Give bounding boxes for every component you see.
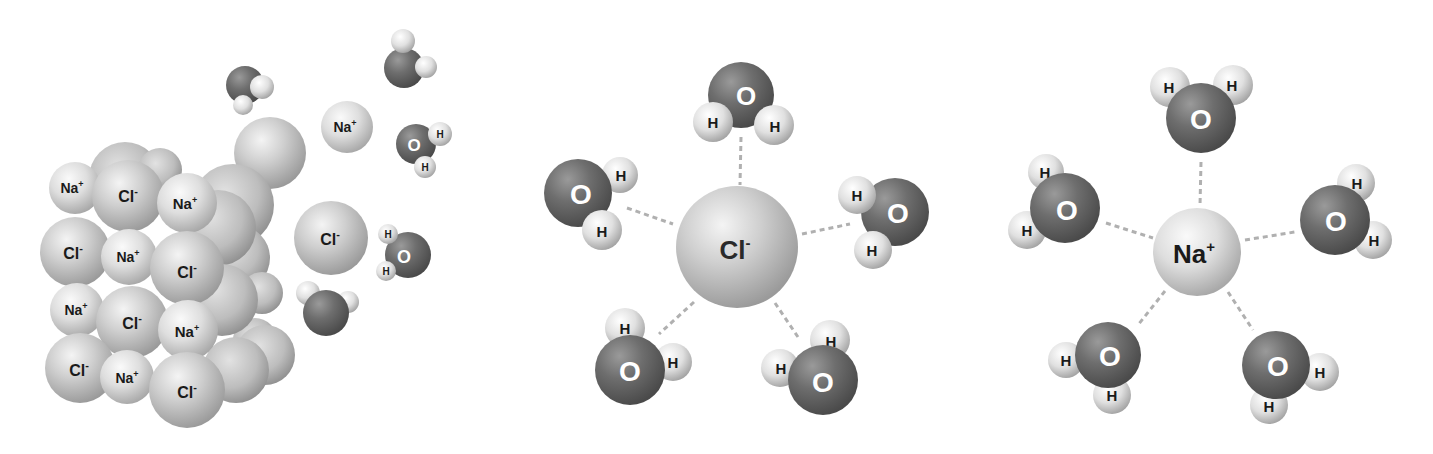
svg-text:H: H <box>708 114 719 131</box>
panel-dissolving-crystal: Na+ Cl- Na+ Cl- Na+ Cl- <box>40 29 452 428</box>
chloride-ion: Cl- <box>676 186 798 308</box>
water-molecule: O H H <box>838 176 929 269</box>
svg-text:H: H <box>1022 222 1033 239</box>
water-molecule <box>296 281 359 336</box>
lattice-ion-na: Na+ <box>50 283 104 337</box>
lattice-ion-cl: Cl- <box>149 352 225 428</box>
svg-text:H: H <box>1061 352 1072 369</box>
svg-text:H: H <box>620 320 631 337</box>
svg-text:H: H <box>867 242 878 259</box>
sodium-ion: Na+ <box>1153 208 1241 296</box>
lattice-ion-na: Na+ <box>100 350 154 404</box>
svg-text:H: H <box>1107 387 1118 404</box>
svg-text:O: O <box>1267 351 1289 382</box>
svg-text:H: H <box>1369 232 1380 249</box>
svg-text:O: O <box>397 247 411 267</box>
svg-text:O: O <box>812 367 834 398</box>
water-molecule: H H O <box>1048 322 1141 414</box>
svg-text:O: O <box>407 136 420 155</box>
water-molecule: H H O <box>595 308 692 405</box>
lattice-ion-na: Na+ <box>158 300 218 360</box>
svg-text:O: O <box>736 81 756 111</box>
nacl-dissolution-diagram: Na+ Cl- Na+ Cl- Na+ Cl- <box>0 0 1433 454</box>
water-molecule: H H O <box>1150 65 1253 153</box>
svg-text:O: O <box>1190 104 1212 135</box>
water-molecule: H H O <box>761 320 858 415</box>
svg-text:H: H <box>384 229 391 240</box>
svg-text:H: H <box>382 266 389 277</box>
water-molecule: H H O <box>1300 164 1392 259</box>
water-molecule <box>226 66 274 115</box>
svg-text:H: H <box>776 360 787 377</box>
lattice-ion-na: Na+ <box>101 229 157 285</box>
lattice-ion-cl: Cl- <box>150 231 224 305</box>
panel-hydrated-sodium: Na+ H H O H H O H H O <box>1008 65 1392 424</box>
water-molecule: H H O <box>1008 154 1100 249</box>
water-molecule: O H H <box>693 62 794 145</box>
svg-text:O: O <box>570 179 592 210</box>
lattice-ion-cl: Cl- <box>92 160 164 232</box>
svg-text:H: H <box>770 118 781 135</box>
svg-text:H: H <box>597 223 608 240</box>
lattice-ion-na: Na+ <box>157 173 217 233</box>
svg-text:H: H <box>1315 364 1326 381</box>
water-molecule <box>384 29 437 88</box>
svg-text:O: O <box>1325 206 1347 237</box>
water-molecule: H O H <box>544 157 638 250</box>
water-molecule: O H H <box>376 224 431 281</box>
panel-hydrated-chloride: Cl- O H H H O H O H H <box>544 62 929 415</box>
free-sodium-ion: Na+ <box>321 101 373 153</box>
svg-text:H: H <box>1352 175 1363 192</box>
svg-text:H: H <box>1264 398 1275 415</box>
water-molecule: H H O <box>1242 331 1339 424</box>
svg-text:H: H <box>616 167 627 184</box>
svg-text:H: H <box>421 162 428 173</box>
svg-text:O: O <box>619 356 641 387</box>
svg-text:H: H <box>1164 79 1175 96</box>
svg-text:H: H <box>668 354 679 371</box>
lattice-front-face: Na+ Cl- Na+ Cl- Na+ Cl- <box>40 160 225 428</box>
lattice-ion-cl: Cl- <box>40 217 110 287</box>
svg-text:H: H <box>436 129 443 140</box>
free-chloride-ion: Cl- <box>294 201 368 275</box>
svg-text:H: H <box>852 187 863 204</box>
svg-text:O: O <box>887 198 909 229</box>
water-molecule: O H H <box>396 122 452 178</box>
svg-text:O: O <box>1099 341 1121 372</box>
svg-text:H: H <box>1227 77 1238 94</box>
svg-text:O: O <box>1056 195 1078 226</box>
